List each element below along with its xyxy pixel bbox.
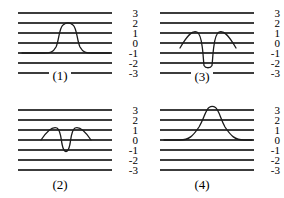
panel-1-curve — [22, 23, 110, 53]
panel-3-gridlines — [160, 13, 254, 73]
panel-4-curve — [164, 107, 252, 140]
panel-2-caption-wrap: (2) — [0, 178, 120, 191]
panel-1-caption: (1) — [49, 69, 70, 82]
panel-3-svg — [142, 0, 284, 99]
panel-2-axis-labels: 3 2 1 0 -1 -2 -3 — [122, 99, 140, 198]
panel-1-gridlines — [18, 13, 112, 73]
panel-4-caption: (4) — [191, 178, 212, 191]
panel-1-caption-wrap: (1) — [0, 69, 120, 82]
panel-4-tick-m3: -3 — [271, 165, 280, 176]
figure-four-waveform-panels: 3 2 1 0 -1 -2 -3 (1) — [0, 0, 284, 198]
panel-3-caption: (3) — [191, 70, 212, 83]
panel-2-gridlines — [18, 110, 112, 170]
panel-2: 3 2 1 0 -1 -2 -3 (2) — [0, 99, 142, 198]
panel-3-plot — [142, 0, 284, 99]
panel-3-axis-labels: 3 2 1 0 -1 -2 -3 — [264, 0, 282, 99]
panel-4: 3 2 1 0 -1 -2 -3 (4) — [142, 99, 284, 198]
panel-1-svg — [0, 0, 142, 99]
panel-2-caption: (2) — [49, 178, 70, 191]
panel-3: 3 2 1 0 -1 -2 -3 (3) — [142, 0, 284, 99]
panel-3-caption-wrap: (3) — [142, 70, 262, 83]
panel-2-tick-m3: -3 — [129, 165, 138, 176]
panel-4-caption-wrap: (4) — [142, 178, 262, 191]
panel-3-curve — [180, 32, 236, 68]
panel-1-plot — [0, 0, 142, 99]
panel-3-tick-m3: -3 — [271, 68, 280, 79]
panel-1-tick-m3: -3 — [129, 68, 138, 79]
panel-4-axis-labels: 3 2 1 0 -1 -2 -3 — [264, 99, 282, 198]
panel-1: 3 2 1 0 -1 -2 -3 (1) — [0, 0, 142, 99]
panel-1-axis-labels: 3 2 1 0 -1 -2 -3 — [122, 0, 140, 99]
